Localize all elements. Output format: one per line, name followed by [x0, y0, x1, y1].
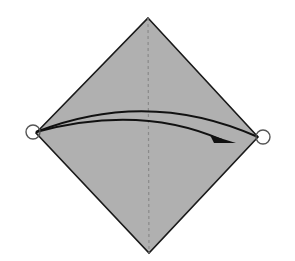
origami-diagram	[0, 0, 295, 261]
paper-diamond	[36, 18, 258, 253]
